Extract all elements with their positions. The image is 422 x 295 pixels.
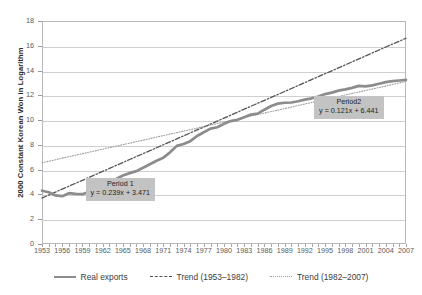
legend-item[interactable]: Trend (1982–2007)	[270, 272, 368, 282]
data-series-layer	[0, 0, 422, 295]
legend-label: Trend (1953–1982)	[177, 272, 248, 282]
annotation-period2-equation: y = 0.121x + 6.441	[319, 107, 379, 116]
annotation-period1-equation: y = 0.239x + 3.471	[91, 189, 151, 198]
legend-marker-icon	[150, 273, 172, 281]
legend-marker-icon	[54, 273, 76, 281]
legend-label: Real exports	[81, 272, 128, 282]
legend-label: Trend (1982–2007)	[297, 272, 368, 282]
legend-item[interactable]: Real exports	[54, 272, 128, 282]
annotation-period1: Period 1 y = 0.239x + 3.471	[86, 178, 156, 201]
chart-legend: Real exportsTrend (1953–1982)Trend (1982…	[0, 272, 422, 282]
annotation-period2: Period2 y = 0.121x + 6.441	[314, 96, 384, 119]
legend-marker-icon	[270, 273, 292, 281]
series-line	[42, 81, 406, 162]
legend-item[interactable]: Trend (1953–1982)	[150, 272, 248, 282]
chart-container: 2000 Constant Korean Won in Logarithm 02…	[0, 0, 422, 295]
